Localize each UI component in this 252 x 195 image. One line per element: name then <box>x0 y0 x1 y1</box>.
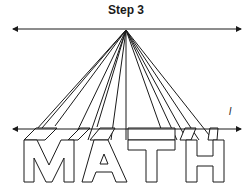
letters-extrusion <box>24 128 218 140</box>
letter-m <box>24 140 74 182</box>
perspective-diagram <box>0 0 252 195</box>
letter-a <box>82 140 127 182</box>
converging-lines <box>27 30 213 140</box>
letter-t <box>128 140 175 182</box>
letter-h <box>186 140 224 182</box>
